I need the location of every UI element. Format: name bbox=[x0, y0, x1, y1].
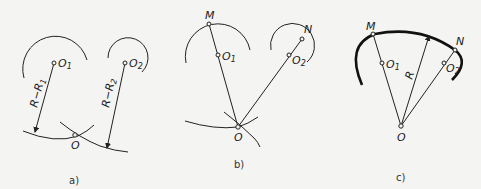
label-o2: O bbox=[446, 62, 455, 75]
center-point-o1 bbox=[216, 53, 220, 57]
label-o1-sub: 1 bbox=[67, 62, 72, 71]
point-m bbox=[207, 22, 211, 26]
center-point-o2 bbox=[287, 53, 291, 57]
label-o1: O bbox=[58, 57, 67, 70]
svg-text:O2: O2 bbox=[129, 57, 143, 71]
label-m: M bbox=[205, 9, 215, 22]
label-m: M bbox=[366, 20, 376, 33]
label-o1: O bbox=[386, 58, 395, 71]
tangent-center-o bbox=[236, 125, 240, 129]
label-o2: O bbox=[129, 57, 138, 70]
panel-c: M N O1 O2 R O c) bbox=[356, 20, 464, 183]
radius-r bbox=[401, 36, 429, 126]
panel-a: O1 O2 O R−R1 R−R2 a) bbox=[23, 36, 148, 186]
label-n: N bbox=[304, 23, 312, 36]
svg-text:O1: O1 bbox=[386, 58, 400, 72]
center-point-o1 bbox=[52, 61, 56, 65]
caption-c: c) bbox=[396, 172, 405, 183]
panel-b: M N O1 O2 O b) bbox=[185, 9, 315, 170]
caption-b: b) bbox=[234, 159, 244, 170]
label-o1-sub: 1 bbox=[231, 55, 236, 64]
svg-text:O1: O1 bbox=[222, 50, 236, 64]
label-o2-sub: 2 bbox=[138, 62, 143, 71]
tangent-center-o bbox=[399, 124, 403, 128]
arc-circle-1 bbox=[23, 36, 87, 78]
svg-text:O2: O2 bbox=[446, 62, 460, 76]
label-n: N bbox=[456, 35, 464, 48]
point-n bbox=[300, 37, 304, 41]
label-r-minus-r1-sub: 1 bbox=[39, 78, 49, 85]
arc-locus-1 bbox=[185, 117, 258, 128]
label-o: O bbox=[71, 139, 80, 152]
label-o2: O bbox=[292, 54, 301, 67]
label-o: O bbox=[397, 131, 406, 144]
line-o-to-m bbox=[209, 24, 238, 127]
label-r-minus-r1: R−R bbox=[27, 82, 46, 109]
label-o1: O bbox=[222, 50, 231, 63]
label-o2-sub: 2 bbox=[301, 59, 306, 68]
label-r: R bbox=[402, 70, 417, 81]
label-r-minus-r2: R−R bbox=[99, 82, 117, 109]
center-point-o1 bbox=[380, 61, 384, 65]
tangent-center-o bbox=[73, 133, 77, 137]
label-o1-sub: 1 bbox=[395, 63, 400, 72]
svg-text:O2: O2 bbox=[292, 54, 306, 68]
arc-locus-1 bbox=[23, 125, 94, 139]
svg-text:O1: O1 bbox=[58, 57, 72, 71]
label-r-minus-r2-sub: 2 bbox=[109, 78, 119, 85]
line-o-to-n bbox=[238, 39, 302, 127]
line-o-to-m bbox=[373, 34, 401, 126]
center-point-o2 bbox=[123, 61, 127, 65]
label-o: O bbox=[234, 131, 243, 144]
label-o2-sub: 2 bbox=[455, 67, 460, 76]
tangent-arc-construction-diagram: O1 O2 O R−R1 R−R2 a) M N O1 O2 O b) bbox=[0, 0, 481, 189]
point-n bbox=[453, 48, 457, 52]
caption-a: a) bbox=[69, 175, 79, 186]
